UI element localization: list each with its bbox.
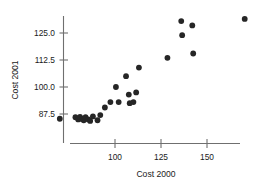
data-point — [136, 65, 142, 71]
data-point — [190, 51, 196, 57]
y-axis-tick-labels: 87.5100.0112.5125.0 — [34, 28, 55, 119]
y-tick-label: 87.5 — [39, 109, 56, 119]
data-point — [165, 55, 171, 61]
data-point — [179, 32, 185, 38]
data-point — [131, 99, 137, 105]
x-axis-title: Cost 2000 — [136, 169, 175, 179]
y-axis-group: 87.5100.0112.5125.0 Cost 2001 — [10, 16, 68, 143]
x-tick-label: 150 — [200, 152, 214, 162]
data-point — [116, 99, 122, 105]
scatter-plot-figure: 87.5100.0112.5125.0 Cost 2001 100125150 … — [0, 0, 253, 185]
data-point — [189, 23, 195, 29]
x-tick-label: 100 — [108, 152, 122, 162]
data-point — [178, 18, 184, 24]
y-tick-label: 100.0 — [34, 82, 55, 92]
data-point-group — [57, 16, 248, 124]
x-axis-tick-labels: 100125150 — [108, 152, 214, 162]
x-tick-label: 125 — [154, 152, 168, 162]
data-point — [123, 73, 129, 79]
data-point — [95, 117, 101, 123]
data-point — [57, 116, 63, 122]
data-point — [102, 105, 108, 111]
y-axis-title: Cost 2001 — [10, 60, 20, 99]
data-point — [97, 112, 103, 118]
y-tick-label: 112.5 — [35, 55, 56, 65]
data-point — [108, 99, 114, 105]
data-point — [90, 113, 96, 119]
data-point — [113, 84, 119, 90]
y-tick-label: 125.0 — [34, 28, 55, 38]
data-point — [126, 92, 132, 98]
data-point — [133, 90, 139, 96]
data-point — [242, 16, 248, 22]
x-axis-group: 100125150 Cost 2000 — [70, 139, 240, 179]
chart-canvas: 87.5100.0112.5125.0 Cost 2001 100125150 … — [0, 0, 253, 185]
